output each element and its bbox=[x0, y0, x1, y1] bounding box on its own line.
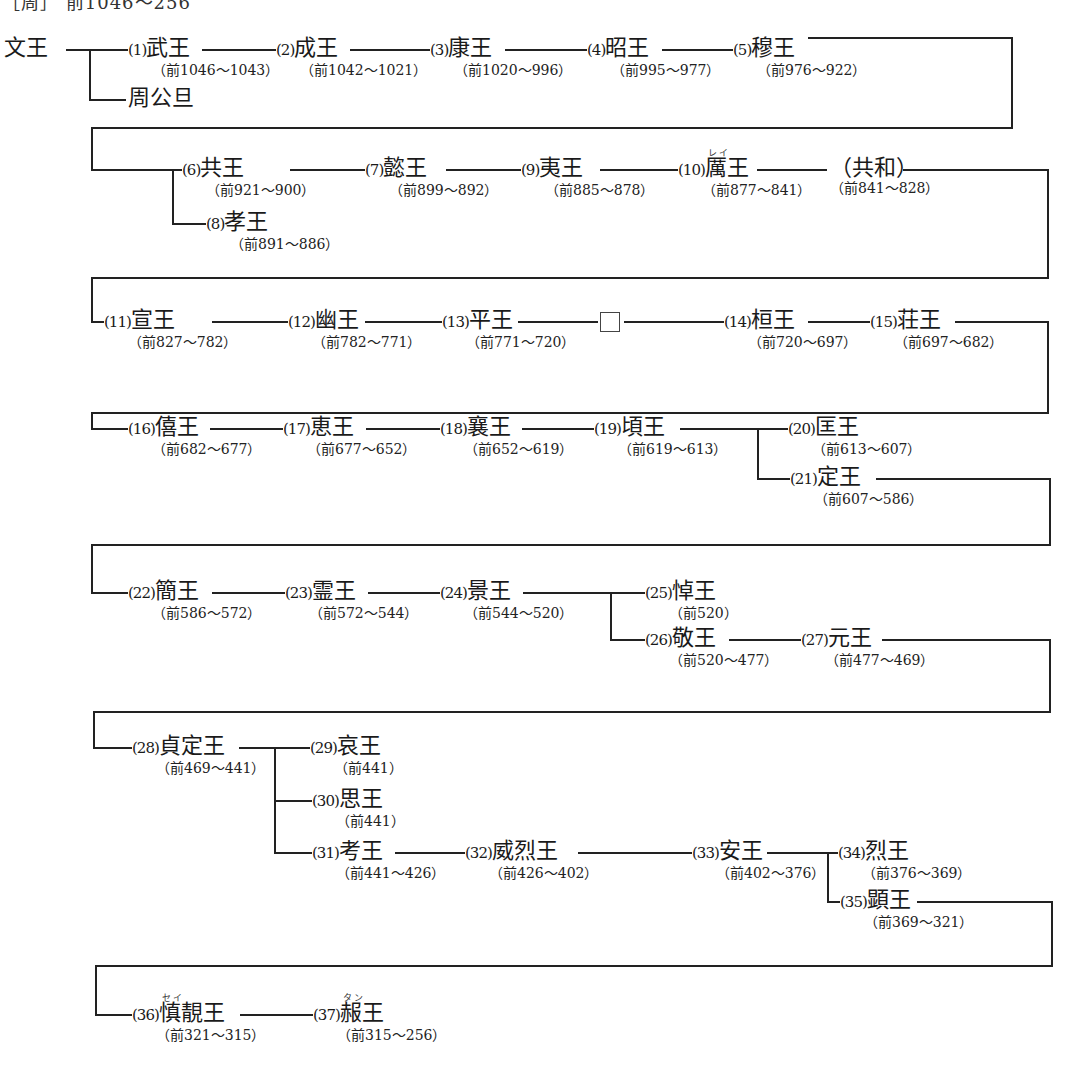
king-name: (31)考王 bbox=[312, 839, 445, 865]
king-name: (19)頃王 bbox=[594, 415, 727, 441]
king-number: (34) bbox=[838, 844, 865, 862]
king-title: 武王 bbox=[146, 35, 190, 60]
king-number: (3) bbox=[430, 41, 448, 59]
king-number: (11) bbox=[104, 313, 131, 331]
king-name: (4)昭王 bbox=[587, 36, 720, 62]
king-number: (4) bbox=[587, 41, 605, 59]
king-node: (15)荘王（前697〜682） bbox=[870, 308, 1003, 350]
reign-dates: （前976〜922） bbox=[733, 62, 866, 78]
king-title: 安王 bbox=[719, 838, 763, 863]
king-node: (1)武王（前1046〜1043） bbox=[128, 36, 279, 78]
king-node: (19)頃王（前619〜613） bbox=[594, 415, 727, 457]
reign-dates: （前441） bbox=[310, 760, 403, 776]
king-number: (9) bbox=[521, 161, 539, 179]
king-number: (2) bbox=[276, 41, 294, 59]
ruby-reading: セイ bbox=[162, 991, 184, 1004]
king-number: (14) bbox=[724, 313, 751, 331]
king-title: 平王 bbox=[469, 307, 513, 332]
root-node-wen-wang: 文王 bbox=[4, 36, 48, 60]
king-node: (21)定王（前607〜586） bbox=[790, 465, 923, 507]
reign-dates: （前891〜886） bbox=[206, 236, 339, 252]
king-title: 考王 bbox=[339, 838, 383, 863]
king-number: (30) bbox=[312, 792, 339, 810]
king-title: 威烈王 bbox=[492, 838, 558, 863]
king-number: (33) bbox=[692, 844, 719, 862]
king-name: (34)烈王 bbox=[838, 839, 971, 865]
king-node: (26)敬王（前520〜477） bbox=[645, 626, 778, 668]
king-node: (14)桓王（前720〜697） bbox=[724, 308, 857, 350]
king-node: (33)安王（前402〜376） bbox=[692, 839, 825, 881]
root-name: 文王 bbox=[4, 36, 48, 60]
king-name: (17)恵王 bbox=[283, 415, 416, 441]
king-title: 襄王 bbox=[467, 414, 511, 439]
king-title: 敬王 bbox=[672, 625, 716, 650]
king-node: (3)康王（前1020〜996） bbox=[430, 36, 572, 78]
king-title: 桓王 bbox=[751, 307, 795, 332]
king-number: (37) bbox=[313, 1006, 340, 1024]
king-name: (5)穆王 bbox=[733, 36, 866, 62]
king-number: (20) bbox=[788, 420, 815, 438]
reign-dates: （前619〜613） bbox=[594, 441, 727, 457]
king-node: タン(37)赧王（前315〜256） bbox=[313, 1001, 446, 1043]
reign-dates: （前441〜426） bbox=[312, 865, 445, 881]
king-name: (18)襄王 bbox=[440, 415, 573, 441]
king-number: (19) bbox=[594, 420, 621, 438]
king-number: (23) bbox=[285, 584, 312, 602]
king-name: (2)成王 bbox=[276, 36, 427, 62]
reign-dates: （前477〜469） bbox=[801, 652, 934, 668]
king-title: 康王 bbox=[448, 35, 492, 60]
king-number: (27) bbox=[801, 631, 828, 649]
king-title: 烈王 bbox=[865, 838, 909, 863]
king-title: 哀王 bbox=[337, 733, 381, 758]
king-title: 共王 bbox=[200, 155, 244, 180]
king-name: (24)景王 bbox=[440, 579, 573, 605]
king-name: (36)慎靚王 bbox=[132, 1001, 265, 1027]
king-name: (21)定王 bbox=[790, 465, 923, 491]
reign-dates: （前544〜520） bbox=[440, 605, 573, 621]
king-number: (7) bbox=[365, 161, 383, 179]
reign-dates: （前376〜369） bbox=[838, 865, 971, 881]
king-name: (3)康王 bbox=[430, 36, 572, 62]
king-number: (6) bbox=[182, 161, 200, 179]
king-title: 貞定王 bbox=[159, 733, 225, 758]
king-title: 宣王 bbox=[131, 307, 175, 332]
king-title: 定王 bbox=[817, 464, 861, 489]
king-name: (10)厲王 bbox=[678, 156, 811, 182]
king-title: 悼王 bbox=[672, 578, 716, 603]
king-node: (8)孝王（前891〜886） bbox=[206, 210, 339, 252]
king-number: (31) bbox=[312, 844, 339, 862]
reign-dates: （前520） bbox=[645, 605, 738, 621]
reign-dates: （前369〜321） bbox=[840, 914, 973, 930]
reign-dates: （前1046〜1043） bbox=[128, 62, 279, 78]
king-name: (25)悼王 bbox=[645, 579, 738, 605]
king-name: (33)安王 bbox=[692, 839, 825, 865]
king-number: (36) bbox=[132, 1006, 159, 1024]
reign-dates: （前877〜841） bbox=[678, 182, 811, 198]
king-title: 元王 bbox=[828, 625, 872, 650]
king-title: 荘王 bbox=[897, 307, 941, 332]
king-number: (5) bbox=[733, 41, 751, 59]
reign-dates: （前402〜376） bbox=[692, 865, 825, 881]
king-name: (23)霊王 bbox=[285, 579, 418, 605]
reign-dates: （前921〜900） bbox=[182, 182, 315, 198]
king-name: (13)平王 bbox=[442, 308, 575, 334]
king-number: (24) bbox=[440, 584, 467, 602]
king-number: (12) bbox=[288, 313, 315, 331]
reign-dates: （前652〜619） bbox=[440, 441, 573, 457]
king-node: (27)元王（前477〜469） bbox=[801, 626, 934, 668]
king-number: (32) bbox=[465, 844, 492, 862]
reign-dates: （前1042〜1021） bbox=[276, 62, 427, 78]
king-node: セイ(36)慎靚王（前321〜315） bbox=[132, 1001, 265, 1043]
king-number: (1) bbox=[128, 41, 146, 59]
king-title: 昭王 bbox=[605, 35, 649, 60]
king-title: 成王 bbox=[294, 35, 338, 60]
king-node: (29)哀王（前441） bbox=[310, 734, 403, 776]
king-name: (22)簡王 bbox=[128, 579, 261, 605]
king-node: (31)考王（前441〜426） bbox=[312, 839, 445, 881]
king-title: 穆王 bbox=[751, 35, 795, 60]
king-number: (26) bbox=[645, 631, 672, 649]
king-number: (17) bbox=[283, 420, 310, 438]
king-name: (29)哀王 bbox=[310, 734, 403, 760]
king-node: (4)昭王（前995〜977） bbox=[587, 36, 720, 78]
reign-dates: （前682〜677） bbox=[128, 441, 261, 457]
